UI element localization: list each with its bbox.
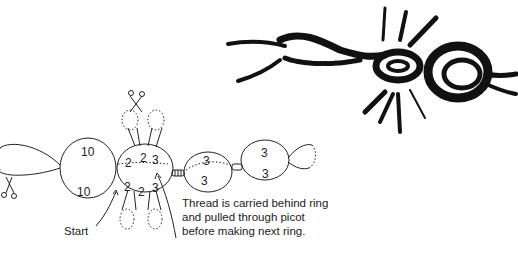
count: 3 — [152, 153, 159, 167]
caption: Thread is carried behind ring and pulled… — [182, 196, 382, 238]
count: 2 — [138, 185, 145, 199]
count: 3 — [261, 146, 268, 160]
start-label: Start — [64, 225, 88, 237]
tatted-motif-illustration — [228, 8, 516, 132]
caption-line: Thread is carried behind ring — [182, 196, 382, 210]
scissors-icon-top — [130, 96, 142, 112]
count: 2 — [124, 180, 131, 194]
count: 2 — [125, 156, 132, 170]
count: 10 — [77, 185, 91, 199]
count: 3 — [262, 167, 269, 181]
caption-line: and pulled through picot — [182, 210, 382, 224]
scissors-icon-left — [6, 177, 14, 193]
count: 2 — [140, 151, 147, 165]
caption-line: before making next ring. — [182, 224, 382, 238]
count: 3 — [152, 181, 159, 195]
count: 10 — [81, 145, 95, 159]
count: 3 — [203, 154, 210, 168]
count: 3 — [201, 174, 208, 188]
